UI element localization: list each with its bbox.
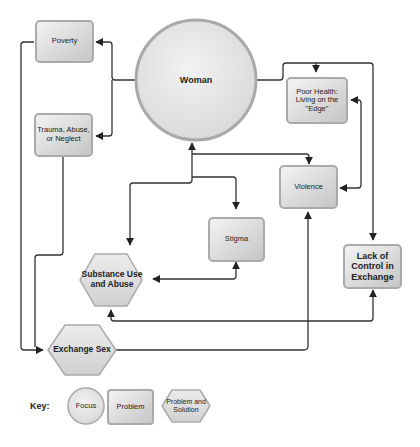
- node-substance-hex: [80, 254, 142, 306]
- key-problem-solution-hex: [162, 390, 210, 422]
- node-violence-box: [280, 166, 337, 208]
- node-exchangesex-hex: [48, 325, 116, 375]
- node-poverty-box: [36, 21, 93, 62]
- edge-woman-trauma: [96, 80, 112, 136]
- edge-lackcontrol-substance: [111, 290, 373, 321]
- edge-woman-substance: [130, 143, 192, 245]
- node-lackcontrol-box: [344, 245, 401, 288]
- diagram-canvas: [0, 0, 420, 447]
- edge-woman-stigma: [192, 177, 236, 209]
- edge-stigma-substance: [153, 262, 236, 279]
- key-focus-circle: [68, 388, 104, 424]
- node-woman-circle: [136, 20, 256, 140]
- node-stigma-box: [209, 218, 264, 261]
- edge-trauma-exchangesex: [35, 155, 63, 347]
- edge-poverty-exchangesex: [21, 42, 43, 350]
- node-poorhealth-box: [287, 78, 347, 123]
- edge-woman-poverty: [96, 42, 136, 80]
- edge-woman-violence: [192, 154, 309, 164]
- node-trauma-box: [35, 114, 92, 156]
- key-problem-box: [108, 390, 153, 424]
